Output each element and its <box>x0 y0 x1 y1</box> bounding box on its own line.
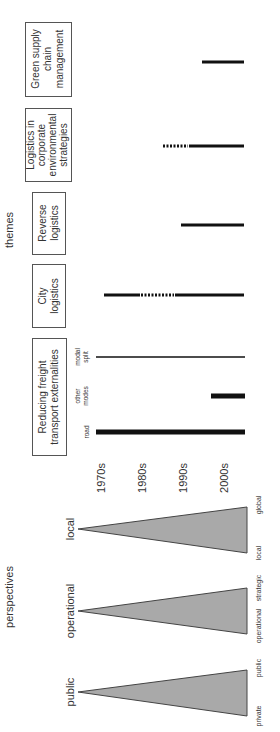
perspective-public-private: public public private <box>64 658 263 726</box>
theme-label-line: strategies <box>58 123 69 166</box>
perspective-triangle <box>78 670 247 716</box>
decade-2000s: 2000s <box>218 463 230 493</box>
sublabel-other-modes: other modes <box>74 385 89 405</box>
theme-label-line: City <box>37 287 48 304</box>
theme-label-line: Green supply <box>30 29 41 88</box>
svg-text:road: road <box>83 425 90 438</box>
theme-logistics-corporate: Logistics in corporate environmental str… <box>25 109 244 182</box>
themes-label: themes <box>3 211 15 248</box>
sublabel-modal-split: modal split <box>74 348 90 366</box>
perspective-high-label: global <box>255 495 263 514</box>
perspective-title: local <box>64 518 76 541</box>
theme-label-line: logistics <box>49 205 60 241</box>
perspective-title: operational <box>64 584 76 638</box>
perspective-low-label: local <box>255 545 262 560</box>
theme-reverse-logistics: Reverse logistics <box>33 193 245 255</box>
theme-label-line: Logistics in <box>25 120 36 169</box>
theme-green-supply-chain: Green supply chain management <box>26 23 245 97</box>
perspective-triangle <box>78 507 247 553</box>
svg-text:other: other <box>74 388 81 404</box>
themes-perspectives-diagram: themes perspectives Green supply chain m… <box>0 0 280 732</box>
sublabel-road: road <box>83 425 90 438</box>
perspective-operational-strategic: operational strategic operational <box>64 574 263 643</box>
perspective-low-label: private <box>255 705 263 726</box>
theme-city-logistics: City logistics <box>33 265 245 328</box>
decade-1970s: 1970s <box>95 463 107 493</box>
perspective-high-label: public <box>255 658 263 677</box>
perspective-low-label: operational <box>255 608 263 643</box>
decade-1990s: 1990s <box>177 463 189 493</box>
perspective-local-global: local global local <box>64 495 263 560</box>
theme-label-line: environmental <box>47 114 58 177</box>
theme-label-line: management <box>54 30 65 89</box>
svg-text:split: split <box>82 351 90 363</box>
theme-label-line: chain <box>42 47 53 71</box>
theme-label-line: transport externalities <box>49 349 60 445</box>
theme-label-line: Reducing freight <box>37 360 48 433</box>
perspective-title: public <box>64 677 76 706</box>
svg-text:modal: modal <box>74 348 81 366</box>
theme-reducing-freight: Reducing freight transport externalities… <box>33 339 246 456</box>
theme-label-line: logistics <box>49 278 60 314</box>
perspectives-label: perspectives <box>3 566 15 628</box>
theme-label-line: corporate <box>36 123 47 166</box>
decade-1980s: 1980s <box>136 463 148 493</box>
perspective-triangle <box>78 588 247 634</box>
theme-label-line: Reverse <box>37 204 48 242</box>
perspective-high-label: strategic <box>255 574 263 601</box>
svg-text:modes: modes <box>82 385 89 405</box>
decade-axis: 1970s 1980s 1990s 2000s <box>95 463 230 493</box>
